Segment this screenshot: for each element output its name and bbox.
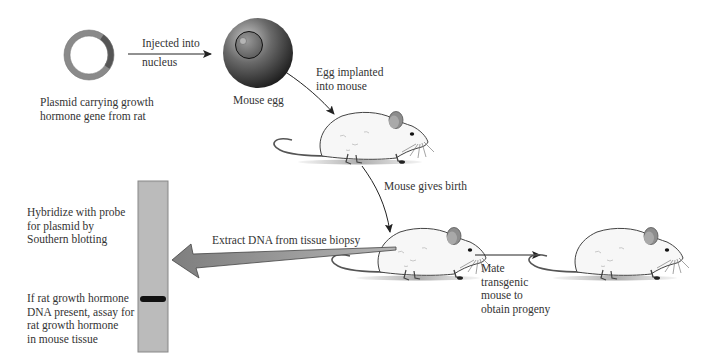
gel-band — [140, 296, 166, 302]
label-plasmid: Plasmid carrying growth hormone gene fro… — [40, 96, 154, 123]
mouse-egg-icon — [223, 18, 293, 88]
label-mate-transgenic: Mate transgenic mouse to obtain progeny — [481, 262, 550, 316]
mouse-progeny-icon — [529, 228, 689, 281]
label-hybridize: Hybridize with probe for plasmid by Sout… — [27, 206, 125, 247]
plasmid-icon — [64, 30, 114, 80]
label-injected-into-nucleus: Injected into nucleus — [142, 37, 200, 69]
mouse-implanted-icon — [274, 112, 434, 165]
label-mouse-gives-birth: Mouse gives birth — [384, 180, 467, 194]
label-extract-dna: Extract DNA from tissue biopsy — [212, 234, 360, 248]
label-assay: If rat growth hormone DNA present, assay… — [27, 292, 134, 346]
southern-blot-gel — [138, 181, 168, 352]
label-mouse-egg: Mouse egg — [233, 94, 284, 108]
big-arrow-extract-dna — [172, 244, 396, 278]
label-egg-implanted: Egg implanted into mouse — [316, 66, 383, 93]
arrow-mouse-to-newborn — [362, 166, 390, 232]
